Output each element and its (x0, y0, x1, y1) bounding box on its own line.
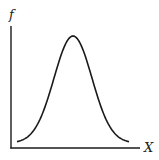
y-axis-label: f (8, 7, 16, 22)
bell-curve-chart: f X (0, 0, 159, 160)
x-axis-label: X (143, 140, 154, 155)
bell-curve-line (17, 36, 129, 142)
